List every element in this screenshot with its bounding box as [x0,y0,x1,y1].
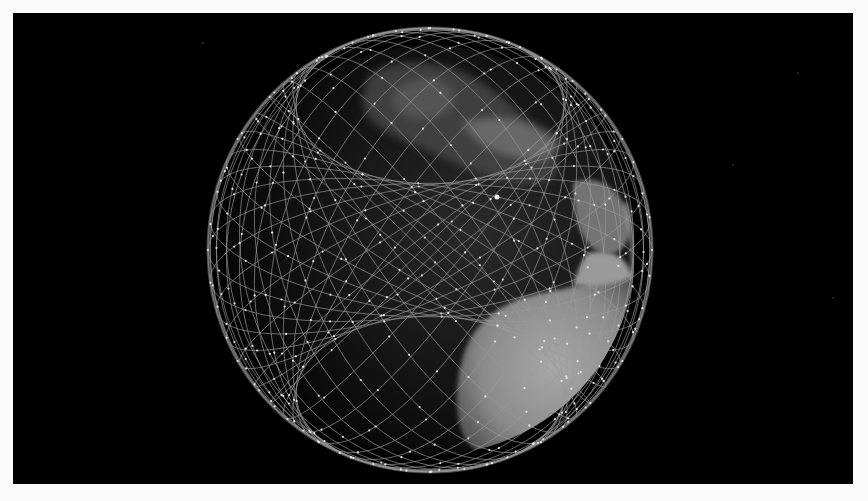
satellite-dot [282,172,284,174]
satellite-dot [486,464,488,466]
satellite-dot [481,109,483,111]
satellite-dot [496,325,498,327]
satellite-dot [549,288,551,290]
satellite-dot [318,395,320,397]
satellite-dot [604,204,606,206]
satellite-dot [490,198,492,200]
satellite-dot [433,79,435,81]
satellite-dot [318,57,320,59]
satellite-dot [634,328,636,330]
satellite-dot [477,421,479,423]
satellite-dot [312,260,314,262]
satellite-dot [380,315,382,317]
satellite-dot [273,352,275,354]
satellite-dot [601,378,603,380]
satellite-dot [585,406,587,408]
satellite-dot [297,118,299,120]
satellite-dot [310,431,312,433]
satellite-dot [525,411,527,413]
satellite-dot [613,150,615,152]
satellite-dot [576,103,578,105]
satellite-dot [422,200,424,202]
satellite-dot [212,235,214,237]
satellite-dot [556,132,558,134]
satellite-dot [502,279,504,281]
satellite-dot [632,175,634,177]
satellite-dot [318,137,320,139]
satellite-dot [226,213,228,215]
satellite-dot [527,149,529,151]
satellite-dot [430,471,432,473]
satellite-dot [548,67,550,69]
satellite-dot [613,189,615,191]
satellite-dot [340,258,342,260]
satellite-dot [646,263,648,265]
satellite-dot [287,255,289,257]
satellite-dot [275,244,277,246]
satellite-dot [612,349,614,351]
satellite-dot [558,413,560,415]
satellite-dot [424,237,426,239]
satellite-dot [282,90,284,92]
satellite-dot [565,78,567,80]
satellite-dot [268,391,270,393]
satellite-dot [233,302,235,304]
satellite-dot [323,440,325,442]
satellite-dot [245,348,247,350]
satellite-dot [379,241,381,243]
satellite-dot [233,341,235,343]
satellite-dot [284,305,286,307]
satellite-dot [438,469,440,471]
satellite-dot [388,336,390,338]
satellite-dot [474,35,476,37]
satellite-dot [292,360,294,362]
satellite-dot [549,290,551,292]
satellite-dot [225,323,227,325]
satellite-dot [577,372,579,374]
satellite-dot [551,157,553,159]
satellite-dot [264,204,266,206]
satellite-dot [505,315,507,317]
satellite-dot [587,266,589,268]
satellite-dot [562,98,564,100]
satellite-dot [617,324,619,326]
satellite-dot [209,223,211,225]
satellite-dot [256,349,258,351]
satellite-dot [390,122,392,124]
satellite-dot [484,395,486,397]
satellite-dot [607,153,609,155]
satellite-dot [400,468,402,470]
satellite-dot [613,140,615,142]
satellite-dot [317,152,319,154]
satellite-dot [317,440,319,442]
satellite-dot [602,316,604,318]
satellite-dot [313,197,315,199]
satellite-dot [350,456,352,458]
satellite-dot [455,320,457,322]
satellite-dot [394,247,396,249]
satellite-dot [352,457,354,459]
satellite-dot [648,275,650,277]
satellite-dot [217,191,219,193]
satellite-dot [237,138,239,140]
satellite-dot [405,470,407,472]
satellite-dot [316,60,318,62]
satellite-dot [470,162,472,164]
satellite-dot [321,56,323,58]
satellite-dot [467,437,469,439]
satellite-dot [322,251,324,253]
satellite-dot [589,145,591,147]
satellite-dot [565,375,567,377]
satellite-dot [256,182,258,184]
satellite-dot [437,224,439,226]
satellite-dot [621,138,623,140]
satellite-dot [537,442,539,444]
satellite-dot [567,421,569,423]
satellite-dot [231,188,233,190]
satellite-dot [329,294,331,296]
satellite-dot [566,343,568,345]
satellite-dot [641,192,643,194]
satellite-dot [506,456,508,458]
satellite-dot [475,178,477,180]
satellite-dot [368,429,370,431]
